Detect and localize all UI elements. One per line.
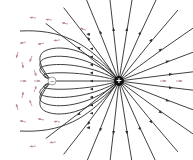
- radial-field-line: [119, 0, 133, 81]
- field-vector-arrow: [54, 40, 60, 41]
- field-vector-arrow: [46, 19, 52, 20]
- field-vector-arrow: [30, 17, 36, 18]
- negative-charge-label: −: [50, 78, 54, 85]
- field-vector-arrow: [30, 146, 36, 147]
- field-direction-arrow: [79, 114, 80, 115]
- field-direction-arrow: [89, 39, 90, 40]
- field-vector-arrow: [50, 142, 56, 143]
- field-lines: [20, 0, 193, 160]
- field-vector-arrow: [22, 92, 23, 98]
- field-vector-arrow: [54, 121, 60, 122]
- field-vector-arrow: [30, 56, 32, 62]
- field-vector-arrow: [20, 121, 26, 122]
- field-line-canvas: −+: [0, 0, 193, 160]
- field-direction-arrow: [89, 123, 90, 124]
- field-vector-arrow: [38, 43, 44, 44]
- field-vector-arrow: [34, 86, 36, 92]
- radial-field-line: [119, 69, 193, 81]
- radial-field-line: [119, 81, 133, 160]
- field-direction-arrow: [151, 40, 152, 41]
- positive-charge-label: +: [116, 76, 121, 86]
- field-vector-arrow: [22, 62, 23, 68]
- field-vector-arrow: [38, 119, 44, 120]
- field-vector-arrow: [16, 104, 18, 110]
- field-vector-arrow: [16, 52, 18, 58]
- field-direction-arrow: [160, 112, 161, 113]
- field-direction-arrow: [79, 48, 80, 49]
- field-vector-arrow: [20, 42, 26, 43]
- radial-field-line: [119, 10, 178, 81]
- electric-field-diagram: −+: [0, 0, 193, 160]
- radial-field-line: [119, 81, 193, 93]
- field-direction-arrow: [160, 50, 161, 51]
- field-vector-arrow: [30, 100, 32, 106]
- field-vector-arrow: [34, 70, 36, 76]
- radial-field-line: [119, 81, 178, 152]
- field-direction-arrow: [151, 121, 152, 122]
- field-vector-arrow: [62, 23, 68, 24]
